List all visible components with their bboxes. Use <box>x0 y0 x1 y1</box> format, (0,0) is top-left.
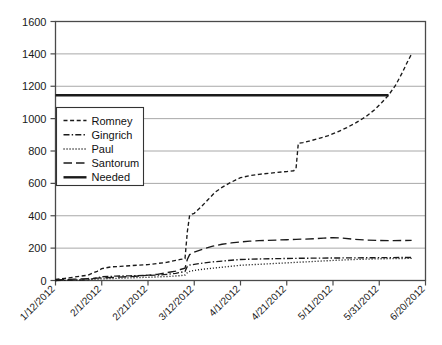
legend-label-paul: Paul <box>92 143 114 155</box>
chart-legend: RomneyGingrichPaulSantorumNeeded <box>57 108 144 186</box>
y-axis-label-1000: 1000 <box>22 113 46 125</box>
legend-label-gingrich: Gingrich <box>92 129 133 141</box>
y-axis-label-400: 400 <box>28 210 46 222</box>
chart-canvas: 02004006008001000120014001600 1/12/20122… <box>0 0 442 345</box>
legend-label-santorum: Santorum <box>92 157 140 169</box>
y-axis-label-1600: 1600 <box>22 16 46 28</box>
y-axis-label-1400: 1400 <box>22 48 46 60</box>
y-axis-label-800: 800 <box>28 145 46 157</box>
y-axis-label-600: 600 <box>28 177 46 189</box>
delegate-count-line-chart: 02004006008001000120014001600 1/12/20122… <box>0 0 442 345</box>
y-axis-label-1200: 1200 <box>22 80 46 92</box>
legend-label-romney: Romney <box>92 115 133 127</box>
y-axis-label-0: 0 <box>40 275 46 287</box>
legend-label-needed: Needed <box>92 171 131 183</box>
y-axis-label-200: 200 <box>28 242 46 254</box>
